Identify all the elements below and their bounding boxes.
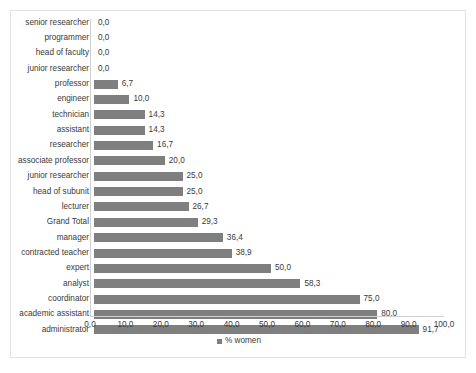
bar-track: 14,3 (94, 107, 467, 122)
bar-track: 20,0 (94, 153, 467, 168)
bar-value-label: 50,0 (271, 264, 291, 272)
bar-value-label: 25,0 (183, 172, 203, 180)
bar[interactable] (94, 249, 232, 258)
bar-row: manager36,4 (11, 230, 467, 245)
bar[interactable] (94, 126, 145, 135)
bar-row: programmer0,0 (11, 30, 467, 45)
category-label: associate professor (11, 157, 94, 165)
bar-value-label: 0,0 (94, 19, 109, 27)
bar[interactable] (94, 172, 183, 181)
category-label: head of faculty (11, 49, 94, 57)
x-tick-label: 90,0 (401, 321, 417, 329)
bar-track: 75,0 (94, 291, 467, 306)
bar-track: 38,9 (94, 245, 467, 260)
bar-value-label: 6,7 (118, 80, 133, 88)
x-tick-label: 0,0 (84, 321, 95, 329)
bar-track: 6,7 (94, 76, 467, 91)
category-label: engineer (11, 95, 94, 103)
bar-row: head of subunit25,0 (11, 184, 467, 199)
bar-row: junior researcher25,0 (11, 169, 467, 184)
bar-value-label: 0,0 (94, 65, 109, 73)
x-axis-tick-labels: 0,010,020,030,040,050,060,070,080,090,01… (90, 321, 444, 335)
bar-row: engineer10,0 (11, 92, 467, 107)
bar[interactable] (94, 141, 153, 150)
bar[interactable] (94, 233, 223, 242)
category-label: coordinator (11, 295, 94, 303)
bar-row: senior researcher0,0 (11, 15, 467, 30)
y-axis-line (90, 19, 91, 317)
bar-track: 58,3 (94, 276, 467, 291)
bar[interactable] (94, 156, 165, 165)
bar-track: 29,3 (94, 215, 467, 230)
category-label: professor (11, 80, 94, 88)
bar[interactable] (94, 295, 360, 304)
bar-track: 0,0 (94, 61, 467, 76)
bar-track: 10,0 (94, 92, 467, 107)
x-tick-label: 40,0 (224, 321, 240, 329)
bar-track: 14,3 (94, 123, 467, 138)
category-label: junior researcher (11, 65, 94, 73)
bar[interactable] (94, 187, 183, 196)
chart-legend: % women (11, 337, 467, 345)
category-label: researcher (11, 141, 94, 149)
bar-row: expert50,0 (11, 261, 467, 276)
bar-value-label: 36,4 (223, 234, 243, 242)
bar-row: Grand Total29,3 (11, 215, 467, 230)
category-label: manager (11, 234, 94, 242)
x-tick-label: 30,0 (188, 321, 204, 329)
bar-row: contracted teacher38,9 (11, 245, 467, 260)
bar[interactable] (94, 310, 377, 319)
bar-track: 16,7 (94, 138, 467, 153)
bar-value-label: 16,7 (153, 141, 173, 149)
category-label: senior researcher (11, 19, 94, 27)
category-label: technician (11, 111, 94, 119)
legend-label: % women (225, 337, 261, 345)
bar-value-label: 58,3 (300, 280, 320, 288)
bar[interactable] (94, 279, 300, 288)
bar[interactable] (94, 110, 145, 119)
bar-row: head of faculty0,0 (11, 46, 467, 61)
bar-row: coordinator75,0 (11, 291, 467, 306)
legend-swatch-icon (217, 339, 222, 344)
x-axis-line (90, 316, 444, 317)
category-label: academic assistant (11, 310, 94, 318)
category-label: junior researcher (11, 172, 94, 180)
bar-value-label: 14,3 (145, 126, 165, 134)
bar-track: 36,4 (94, 230, 467, 245)
bar-value-label: 14,3 (145, 111, 165, 119)
bar[interactable] (94, 218, 198, 227)
category-label: contracted teacher (11, 249, 94, 257)
x-tick-label: 20,0 (153, 321, 169, 329)
bar[interactable] (94, 202, 189, 211)
bar-value-label: 75,0 (360, 295, 380, 303)
bar-row: associate professor20,0 (11, 153, 467, 168)
bar-row: technician14,3 (11, 107, 467, 122)
bar-value-label: 80,0 (377, 310, 397, 318)
category-label: head of subunit (11, 188, 94, 196)
category-label: programmer (11, 34, 94, 42)
bar-value-label: 0,0 (94, 49, 109, 57)
bar-row: assistant14,3 (11, 123, 467, 138)
bar-value-label: 38,9 (232, 249, 252, 257)
x-tick-label: 100,0 (434, 321, 455, 329)
x-tick-label: 50,0 (259, 321, 275, 329)
bar-track: 50,0 (94, 261, 467, 276)
x-tick-label: 80,0 (365, 321, 381, 329)
bar-row: junior researcher0,0 (11, 61, 467, 76)
bar-value-label: 25,0 (183, 188, 203, 196)
category-label: Grand Total (11, 218, 94, 226)
chart-container: senior researcher0,0programmer0,0head of… (10, 10, 466, 358)
bar-value-label: 20,0 (165, 157, 185, 165)
bar-track: 25,0 (94, 169, 467, 184)
bar-row: researcher16,7 (11, 138, 467, 153)
category-label: analyst (11, 280, 94, 288)
bar-row: analyst58,3 (11, 276, 467, 291)
x-tick-label: 60,0 (294, 321, 310, 329)
bar-track: 26,7 (94, 199, 467, 214)
bar[interactable] (94, 95, 129, 104)
bar[interactable] (94, 80, 118, 89)
bar-track: 25,0 (94, 184, 467, 199)
bar-value-label: 26,7 (189, 203, 209, 211)
bar[interactable] (94, 264, 271, 273)
category-label: expert (11, 264, 94, 272)
